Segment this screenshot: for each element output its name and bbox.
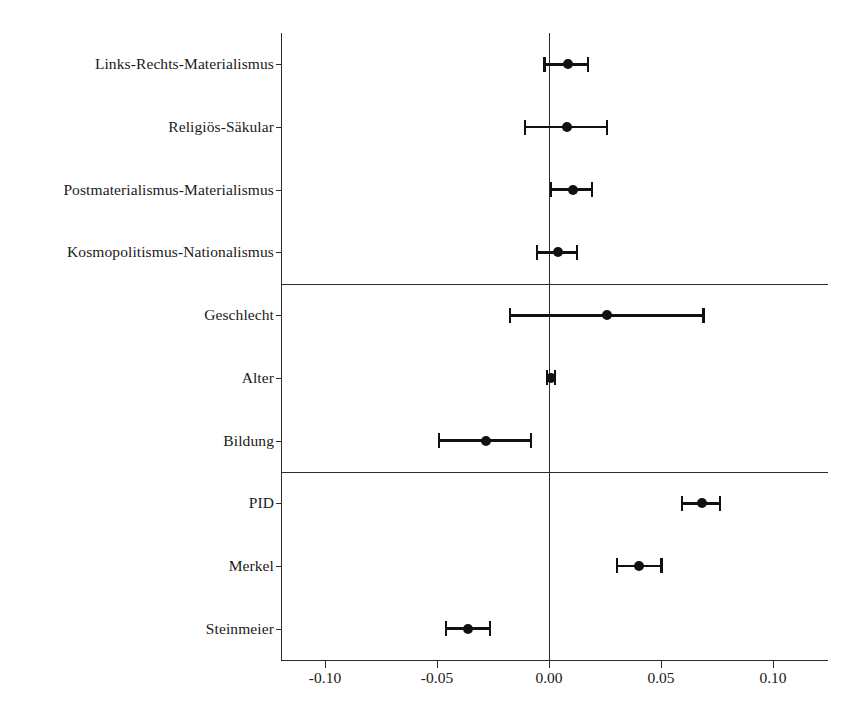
x-axis-tick: [325, 661, 326, 668]
ci-cap-high: [591, 182, 594, 197]
y-axis-label: Merkel: [229, 558, 274, 574]
x-axis-tick-label: -0.05: [421, 670, 453, 686]
y-axis-label: Postmaterialismus-Materialismus: [63, 182, 274, 198]
y-axis-label: Links-Rechts-Materialismus: [95, 57, 274, 73]
y-axis-label: Alter: [242, 370, 274, 386]
y-axis-label: Bildung: [223, 433, 274, 449]
y-axis-label: Steinmeier: [206, 621, 274, 637]
point-estimate-marker: [562, 122, 572, 132]
group-separator-line: [281, 284, 828, 285]
point-estimate-marker: [697, 498, 707, 508]
ci-cap-low: [616, 558, 619, 573]
ci-cap-low: [543, 57, 546, 72]
y-axis-tick: [276, 315, 282, 316]
y-axis-tick: [276, 629, 282, 630]
point-estimate-marker: [563, 59, 573, 69]
coefficient-plot: Links-Rechts-MaterialismusReligiös-Säkul…: [0, 0, 848, 723]
x-axis-tick-label: 0.05: [647, 670, 674, 686]
point-estimate-marker: [568, 185, 578, 195]
ci-cap-low: [681, 496, 684, 511]
x-axis-tick: [549, 661, 550, 668]
x-axis-tick: [773, 661, 774, 668]
point-estimate-marker: [546, 373, 556, 383]
ci-cap-high: [660, 558, 663, 573]
y-axis-tick: [276, 566, 282, 567]
y-axis-label: Kosmopolitismus-Nationalismus: [67, 245, 274, 261]
ci-cap-low: [536, 245, 539, 260]
y-axis-tick: [276, 190, 282, 191]
y-axis-tick: [276, 252, 282, 253]
ci-cap-high: [606, 120, 609, 135]
point-estimate-marker: [481, 436, 491, 446]
y-axis-tick: [276, 441, 282, 442]
ci-cap-high: [530, 433, 533, 448]
x-axis-tick-label: 0.00: [535, 670, 562, 686]
x-axis-tick: [661, 661, 662, 668]
ci-cap-low: [550, 182, 553, 197]
x-axis-tick: [437, 661, 438, 668]
y-axis-label: PID: [249, 496, 274, 512]
x-axis-line: [281, 660, 828, 661]
x-axis-tick-label: -0.10: [309, 670, 341, 686]
group-separator-line: [281, 472, 828, 473]
ci-cap-low: [438, 433, 441, 448]
y-axis-tick: [276, 127, 282, 128]
point-estimate-marker: [602, 310, 612, 320]
ci-cap-high: [719, 496, 722, 511]
y-axis-label: Geschlecht: [204, 307, 274, 323]
x-axis-tick-label: 0.10: [759, 670, 786, 686]
y-axis-tick: [276, 64, 282, 65]
y-axis-label: Religiös-Säkular: [168, 119, 274, 135]
y-axis-tick: [276, 378, 282, 379]
point-estimate-marker: [634, 561, 644, 571]
ci-cap-high: [489, 621, 492, 636]
ci-cap-low: [445, 621, 448, 636]
y-axis-tick: [276, 503, 282, 504]
ci-cap-low: [509, 308, 512, 323]
point-estimate-marker: [463, 624, 473, 634]
ci-cap-high: [576, 245, 579, 260]
y-axis-labels: Links-Rechts-MaterialismusReligiös-Säkul…: [0, 0, 274, 723]
ci-cap-low: [524, 120, 527, 135]
ci-cap-high: [587, 57, 590, 72]
point-estimate-marker: [553, 247, 563, 257]
ci-cap-high: [702, 308, 705, 323]
